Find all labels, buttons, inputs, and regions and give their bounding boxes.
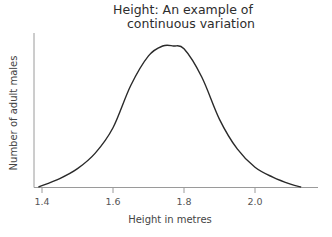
x-tick-label: 1.6 xyxy=(105,196,120,207)
x-axis-label: Height in metres xyxy=(0,214,332,225)
distribution-curve xyxy=(38,45,301,187)
x-tick-label: 2.0 xyxy=(247,196,262,207)
x-axis-ticks xyxy=(42,188,255,194)
x-tick-label: 1.8 xyxy=(176,196,191,207)
y-axis-label: Number of adult males xyxy=(8,56,19,171)
plot-area xyxy=(0,0,332,237)
x-tick-label: 1.4 xyxy=(34,196,49,207)
